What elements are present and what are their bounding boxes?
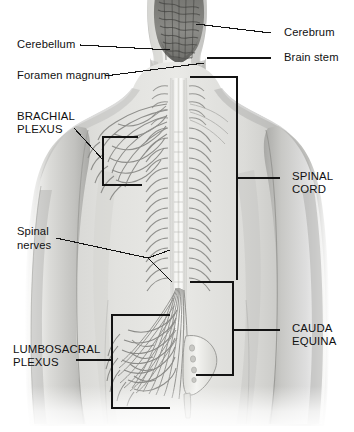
label-brain-stem: Brain stem: [284, 51, 339, 64]
label-brachial-plexus-line2: PLEXUS: [17, 123, 63, 136]
leader-cerebrum: [196, 24, 271, 33]
label-cerebrum: Cerebrum: [284, 26, 335, 39]
label-spinal-cord-line2: CORD: [292, 183, 326, 196]
anatomy-figure: Cerebellum Foramen magnum BRACHIAL PLEXU…: [0, 0, 354, 432]
label-brachial-plexus-line1: BRACHIAL: [17, 110, 75, 123]
label-spinal-nerves-line2: nerves: [17, 239, 51, 252]
label-foramen-magnum: Foramen magnum: [17, 69, 110, 82]
label-cerebellum: Cerebellum: [17, 38, 75, 51]
label-cauda-equina-line2: EQUINA: [292, 335, 336, 348]
label-cauda-equina-line1: CAUDA: [292, 322, 332, 335]
label-spinal-cord-line1: SPINAL: [292, 170, 333, 183]
label-lumbosacral-plexus-line1: LUMBOSACRAL: [13, 343, 100, 356]
label-spinal-nerves-line1: Spinal: [17, 225, 49, 238]
label-lumbosacral-plexus-line2: PLEXUS: [13, 356, 59, 369]
